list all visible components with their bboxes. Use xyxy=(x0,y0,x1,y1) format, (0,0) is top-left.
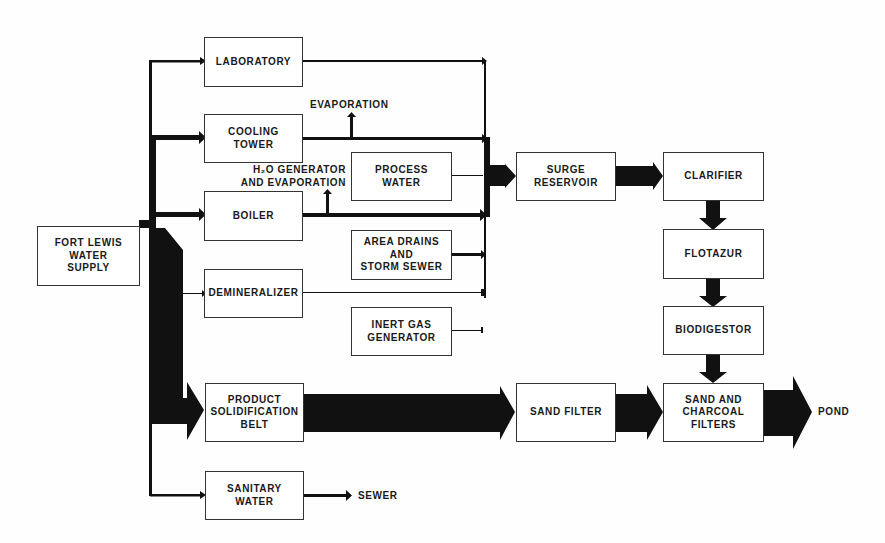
node-sanitary-water: SANITARY WATER xyxy=(205,471,304,520)
node-cooling-tower: COOLING TOWER xyxy=(204,114,303,163)
node-flotazur: FLOTAZUR xyxy=(663,229,764,279)
water-flow-diagram: FORT LEWIS WATER SUPPLY LABORATORY COOLI… xyxy=(0,0,885,543)
node-clarifier: CLARIFIER xyxy=(663,152,764,201)
node-biodigestor: BIODIGESTOR xyxy=(663,306,764,355)
node-inert-gas-generator: INERT GAS GENERATOR xyxy=(351,307,452,356)
node-laboratory: LABORATORY xyxy=(204,37,303,87)
node-process-water: PROCESS WATER xyxy=(351,152,452,201)
node-product-solidification-belt: PRODUCT SOLIDIFICATION BELT xyxy=(205,383,304,442)
node-area-drains-storm-sewer: AREA DRAINS AND STORM SEWER xyxy=(351,230,452,280)
belt-to-sand-filter-arrow xyxy=(303,386,515,440)
label-h2o-generator-evaporation: H₂O GENERATOR AND EVAPORATION xyxy=(240,164,346,189)
label-sewer: SEWER xyxy=(358,490,398,503)
label-pond: POND xyxy=(818,406,849,419)
node-sand-filter: SAND FILTER xyxy=(516,383,616,442)
node-surge-reservoir: SURGE RESERVOIR xyxy=(516,152,616,201)
node-boiler: BOILER xyxy=(204,191,303,241)
supply-trunk xyxy=(139,220,204,440)
label-evaporation: EVAPORATION xyxy=(310,99,388,112)
node-sand-charcoal-filters: SAND AND CHARCOAL FILTERS xyxy=(663,383,764,442)
pond-outflow-arrow xyxy=(763,376,812,449)
node-fort-lewis-water-supply: FORT LEWIS WATER SUPPLY xyxy=(37,226,140,286)
surge-inflow-arrow xyxy=(488,164,516,188)
node-demineralizer: DEMINERALIZER xyxy=(204,269,303,318)
